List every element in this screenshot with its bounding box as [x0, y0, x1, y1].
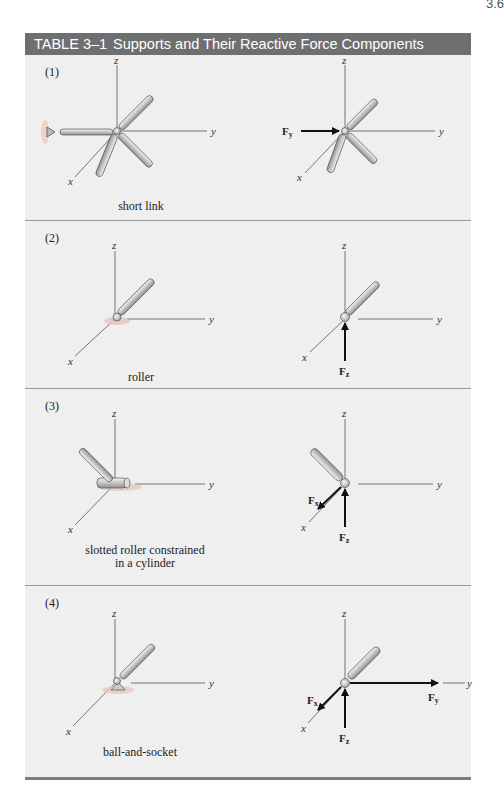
reaction-axes-icon: z y x — [300, 407, 442, 533]
reaction-axes-icon: z y x — [300, 607, 472, 734]
table-row-roller: (2) z y x z y x — [25, 221, 471, 388]
svg-text:z: z — [111, 407, 117, 419]
force-arrow-fz-icon: Fz — [339, 689, 350, 746]
svg-text:y: y — [208, 478, 214, 490]
support-caption: short link — [91, 200, 191, 213]
table-header: TABLE 3–1 Supports and Their Reactive Fo… — [25, 33, 471, 55]
svg-text:Fz: Fz — [339, 732, 350, 746]
support-reactions-table: TABLE 3–1 Supports and Their Reactive Fo… — [25, 33, 471, 778]
table-title: Supports and Their Reactive Force Compon… — [113, 33, 424, 55]
support-caption-line2: in a cylinder — [115, 556, 175, 570]
svg-text:y: y — [208, 677, 214, 689]
svg-text:x: x — [67, 175, 73, 187]
force-arrow-fx-icon: Fx — [307, 687, 341, 710]
svg-text:z: z — [341, 607, 347, 619]
svg-text:x: x — [65, 725, 71, 737]
support-caption-line1: slotted roller constrained — [85, 543, 204, 557]
svg-text:Fx: Fx — [308, 494, 319, 508]
coordinate-axes-icon: z y x — [65, 607, 214, 737]
short-link-member-icon — [41, 94, 154, 177]
svg-text:y: y — [436, 478, 442, 490]
svg-text:z: z — [111, 607, 117, 619]
reaction-axes-icon: z y x — [301, 239, 442, 363]
svg-text:y: y — [208, 313, 214, 325]
coordinate-axes-icon: z y x — [67, 239, 214, 367]
support-caption: slotted roller constrained in a cylinder — [65, 544, 225, 570]
svg-text:z: z — [111, 239, 117, 251]
table-row-ball-and-socket: (4) z y x z y x — [25, 586, 471, 776]
svg-text:y: y — [466, 677, 472, 689]
support-caption: ball-and-socket — [75, 746, 205, 759]
table-label: TABLE 3–1 — [34, 33, 107, 55]
svg-text:y: y — [438, 125, 444, 137]
page-number: 3.6 — [486, 0, 504, 11]
svg-text:Fy: Fy — [282, 125, 293, 139]
svg-text:x: x — [67, 355, 73, 367]
roller-support-icon — [104, 277, 156, 325]
svg-text:Fz: Fz — [339, 365, 350, 379]
ball-and-socket-support-icon — [102, 643, 156, 694]
table-row-short-link: (1) z y x — [25, 55, 471, 220]
force-arrow-fz-icon: Fz — [339, 323, 350, 379]
svg-text:z: z — [341, 239, 347, 251]
short-link-diagram: z y x z y x — [25, 55, 471, 220]
svg-text:x: x — [300, 521, 306, 533]
svg-text:x: x — [301, 351, 307, 363]
svg-text:z: z — [341, 407, 347, 419]
svg-text:y: y — [210, 125, 216, 137]
slotted-roller-support-icon — [78, 447, 142, 491]
svg-text:z: z — [113, 54, 119, 66]
reaction-axes-icon: z y x — [296, 54, 444, 183]
table-bottom-rule — [25, 777, 471, 780]
svg-text:y: y — [436, 313, 442, 325]
svg-text:x: x — [67, 523, 73, 535]
roller-diagram: z y x z y x Fz — [25, 221, 471, 388]
link-members-icon — [326, 98, 379, 174]
coordinate-axes-icon: z y x — [67, 54, 216, 187]
support-caption: roller — [91, 371, 191, 384]
table-row-slotted-roller: (3) z y x z y x — [25, 389, 471, 585]
force-arrow-fz-icon: Fz — [339, 489, 350, 545]
svg-text:Fz: Fz — [339, 531, 350, 545]
svg-text:z: z — [341, 54, 347, 66]
svg-text:x: x — [300, 722, 306, 734]
svg-text:Fy: Fy — [428, 691, 439, 705]
svg-text:Fx: Fx — [307, 694, 318, 708]
coordinate-axes-icon: z y x — [67, 407, 214, 535]
force-arrow-fy-icon: Fy — [282, 125, 339, 139]
force-arrow-fy-icon: Fy — [350, 683, 439, 705]
svg-text:x: x — [296, 171, 302, 183]
